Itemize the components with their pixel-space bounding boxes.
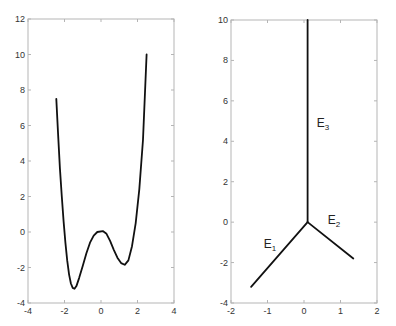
x-tick-label: 1 — [338, 306, 343, 316]
x-tick-label: 2 — [135, 306, 140, 316]
y-tick-label: 6 — [20, 121, 25, 131]
x-tick-label: 2 — [374, 306, 379, 316]
x-tick-label: -2 — [60, 306, 68, 316]
y-tick-label: 6 — [223, 96, 228, 106]
y-tick-label: 8 — [20, 85, 25, 95]
right-axes-edge-graph: -2-1012-4-20246810E1E2E3 — [218, 15, 380, 316]
y-tick-label: 10 — [15, 50, 25, 60]
x-tick-label: -2 — [227, 306, 235, 316]
y-tick-label: 12 — [15, 14, 25, 24]
y-tick-label: 10 — [218, 15, 228, 25]
y-tick-label: -4 — [17, 298, 25, 308]
x-tick-label: -4 — [24, 306, 32, 316]
x-tick-label: 0 — [98, 306, 103, 316]
y-tick-label: 8 — [223, 55, 228, 65]
figure: -4-2024-4-2024681012 -2-1012-4-20246810E… — [0, 0, 396, 326]
x-tick-label: -1 — [263, 306, 271, 316]
y-tick-label: 4 — [20, 156, 25, 166]
x-tick-label: 4 — [171, 306, 176, 316]
y-tick-label: 0 — [20, 227, 25, 237]
y-tick-label: 2 — [20, 192, 25, 202]
axes-frame — [231, 20, 377, 303]
y-tick-label: 2 — [223, 177, 228, 187]
y-tick-label: -2 — [17, 263, 25, 273]
y-tick-label: -4 — [220, 298, 228, 308]
x-tick-label: 0 — [301, 306, 306, 316]
y-tick-label: -2 — [220, 258, 228, 268]
left-axes-potential-curve: -4-2024-4-2024681012 — [15, 14, 177, 316]
axes-frame — [28, 19, 174, 303]
y-tick-label: 4 — [223, 136, 228, 146]
y-tick-label: 0 — [223, 217, 228, 227]
